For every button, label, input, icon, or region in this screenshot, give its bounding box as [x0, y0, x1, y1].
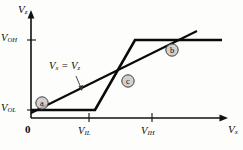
vtc-plot-canvas: a b c — [0, 0, 243, 150]
y-tick-label-vol: VOL — [1, 103, 16, 114]
y-axis-label-sub: z — [25, 8, 28, 15]
y-axis-label: Vz — [18, 4, 28, 16]
unity-gain-line-label: Vx = Vz — [49, 61, 80, 72]
marker-a-label: a — [40, 98, 44, 108]
y-axis-label-main: V — [18, 3, 25, 15]
x-axis-label-sub: x — [235, 128, 238, 135]
unity-gain-line — [31, 31, 197, 113]
unity-label-equals: = — [58, 60, 71, 71]
x-tick-label-vil: VIL — [78, 126, 90, 137]
marker-c[interactable]: c — [122, 75, 134, 87]
marker-b[interactable]: b — [166, 44, 178, 56]
x-axis-label-main: V — [228, 123, 235, 135]
marker-c-label: c — [126, 76, 130, 86]
x-tick-label-vih-sub: IH — [148, 129, 155, 136]
x-tick-label-vil-sub: IL — [85, 129, 91, 136]
x-tick-label-vih: VIH — [141, 126, 155, 137]
y-axis-arrowhead — [28, 10, 35, 19]
x-axis-label: Vx — [228, 124, 238, 136]
y-axis — [28, 10, 35, 118]
y-tick-label-voh: VOH — [1, 33, 17, 44]
x-axis-arrowhead — [220, 115, 229, 122]
vtc-figure: a b c Vz Vx VOH VOL VIL VIH 0 Vx — [0, 0, 243, 150]
x-axis — [31, 115, 228, 122]
marker-a[interactable]: a — [36, 97, 48, 109]
y-tick-label-voh-sub: OH — [8, 36, 18, 43]
y-tick-label-vol-sub: OL — [8, 106, 16, 113]
origin-label: 0 — [25, 124, 31, 135]
unity-label-sub2: z — [78, 64, 81, 71]
marker-b-label: b — [170, 45, 174, 55]
